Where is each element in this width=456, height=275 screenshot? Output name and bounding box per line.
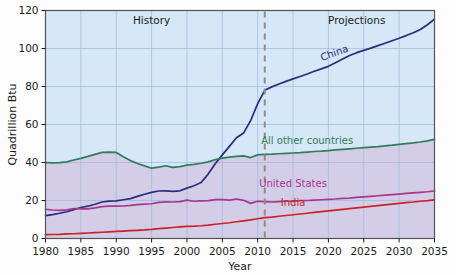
x-tick-label: 1995 bbox=[138, 245, 165, 257]
series-label-all-other-countries: All other countries bbox=[261, 135, 353, 146]
x-tick-label: 1990 bbox=[103, 245, 130, 257]
line-chart-svg: 0204060801001201980198519901995200020052… bbox=[0, 0, 456, 275]
y-tick-label: 0 bbox=[32, 232, 39, 244]
y-tick-label: 40 bbox=[25, 156, 38, 168]
x-axis-title: Year bbox=[227, 260, 252, 273]
x-tick-label: 2025 bbox=[350, 245, 377, 257]
y-axis: 020406080100120 bbox=[18, 4, 45, 244]
x-tick-label: 2030 bbox=[386, 245, 413, 257]
chart-figure: 0204060801001201980198519901995200020052… bbox=[0, 0, 456, 275]
x-tick-label: 2005 bbox=[209, 245, 236, 257]
y-tick-label: 120 bbox=[18, 4, 38, 16]
x-tick-label: 2020 bbox=[315, 245, 342, 257]
x-tick-label: 2015 bbox=[280, 245, 307, 257]
x-tick-label: 2000 bbox=[174, 245, 201, 257]
x-tick-label: 2010 bbox=[244, 245, 271, 257]
x-tick-label: 1985 bbox=[67, 245, 94, 257]
era-label-projections: Projections bbox=[328, 14, 385, 26]
series-label-india: India bbox=[281, 197, 306, 208]
y-tick-label: 80 bbox=[25, 80, 38, 92]
x-tick-label: 2035 bbox=[421, 245, 448, 257]
era-label-history: History bbox=[133, 14, 170, 26]
x-tick-label: 1980 bbox=[32, 245, 59, 257]
y-axis-title: Quadrillion Btu bbox=[6, 83, 19, 165]
series-label-united-states: United States bbox=[259, 178, 327, 189]
y-tick-label: 100 bbox=[18, 42, 38, 54]
y-tick-label: 60 bbox=[25, 118, 38, 130]
chart-plot-area: 0204060801001201980198519901995200020052… bbox=[0, 0, 456, 275]
x-axis: 1980198519901995200020052010201520202025… bbox=[32, 239, 448, 257]
y-tick-label: 20 bbox=[25, 194, 38, 206]
